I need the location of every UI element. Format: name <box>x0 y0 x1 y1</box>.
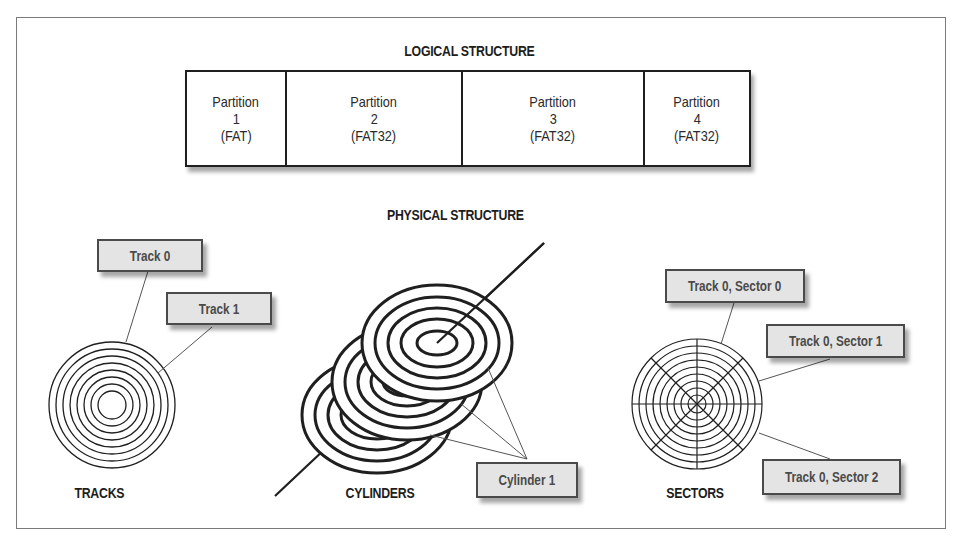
label-track-0-sector-0: Track 0, Sector 0 <box>665 269 805 303</box>
cylinders-icon <box>275 243 544 496</box>
label-track-0: Track 0 <box>97 239 203 272</box>
label-text: Track 0, Sector 0 <box>688 278 781 294</box>
label-track-1: Track 1 <box>166 292 272 325</box>
label-text: Track 1 <box>199 301 240 317</box>
label-track-0-sector-1: Track 0, Sector 1 <box>766 324 905 358</box>
label-text: Track 0, Sector 2 <box>785 469 878 485</box>
tracks-disk-icon <box>49 342 175 468</box>
label-text: Cylinder 1 <box>499 472 556 488</box>
sectors-disk-icon <box>632 339 762 469</box>
caption-cylinders: CYLINDERS <box>346 484 415 501</box>
label-cylinder-1: Cylinder 1 <box>476 462 578 498</box>
caption-sectors: SECTORS <box>666 484 724 501</box>
label-track-0-sector-2: Track 0, Sector 2 <box>762 459 901 495</box>
label-text: Track 0 <box>130 248 171 264</box>
caption-tracks: TRACKS <box>74 484 124 501</box>
label-text: Track 0, Sector 1 <box>789 333 882 349</box>
